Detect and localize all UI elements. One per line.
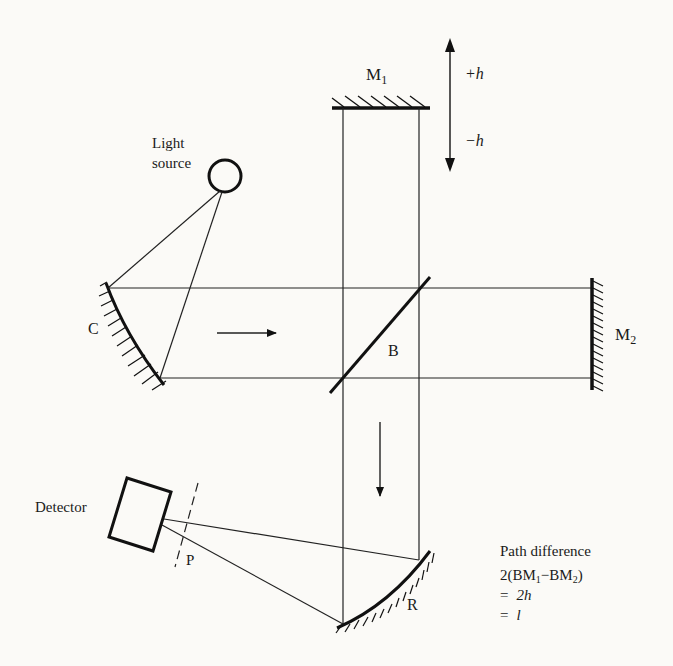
path-difference-annotation: Path difference 2(BM1−BM2) =2h =l — [500, 543, 591, 623]
mirror-motion-arrow — [445, 38, 455, 172]
light-source-label-1: Light — [152, 135, 185, 151]
light-source-label-2: source — [152, 155, 191, 171]
p-label: P — [186, 552, 194, 568]
annotation-line-1: Path difference — [500, 543, 591, 559]
fixed-mirror-m2 — [592, 278, 603, 391]
annotation-line-4: =l — [500, 607, 521, 623]
collimating-mirror-c — [99, 282, 166, 390]
beam-splitter-b — [330, 277, 430, 393]
collimated-beam — [108, 288, 592, 378]
m1-label: M1 — [366, 65, 387, 87]
moving-mirror-m1 — [332, 96, 430, 108]
m2-label: M2 — [615, 325, 636, 347]
minus-h-label: −h — [465, 132, 484, 149]
c-label: C — [88, 320, 99, 337]
converging-rays — [162, 519, 419, 624]
detector-label: Detector — [35, 499, 87, 515]
interferometer-diagram: M1 +h −h Light source C — [0, 0, 673, 666]
r-label: R — [407, 596, 418, 613]
detector-icon — [109, 478, 171, 551]
b-label: B — [388, 342, 399, 359]
focusing-mirror-r — [336, 551, 434, 633]
annotation-line-2: 2(BM1−BM2) — [500, 567, 583, 585]
annotation-line-3: =2h — [500, 587, 531, 603]
plus-h-label: +h — [465, 65, 484, 82]
source-rays — [108, 191, 222, 378]
light-source-icon — [209, 160, 241, 192]
